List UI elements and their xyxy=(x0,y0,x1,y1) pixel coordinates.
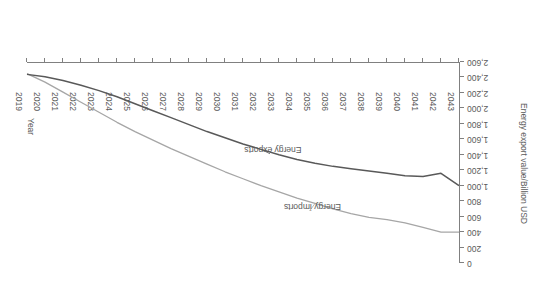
series-label-energy-imports: Energy imports xyxy=(284,202,341,212)
chart-figure: 2043204220412040203920382037203620352034… xyxy=(0,0,548,288)
series-line-energy-imports xyxy=(27,74,459,232)
series-line-energy-exports xyxy=(27,74,459,185)
series-label-energy-exports: Energy exports xyxy=(244,145,301,155)
